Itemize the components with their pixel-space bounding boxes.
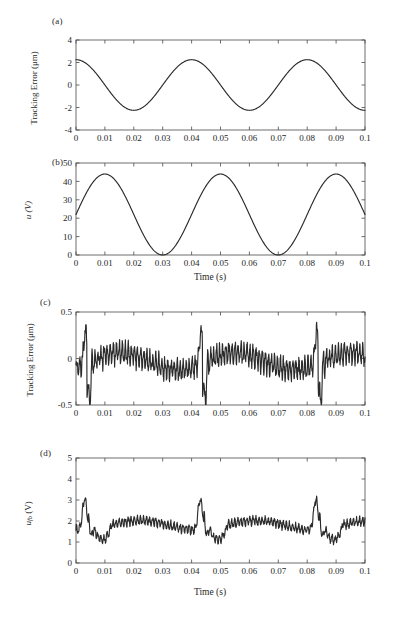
svg-text:0.05: 0.05 xyxy=(213,133,229,143)
svg-text:0: 0 xyxy=(74,566,79,576)
svg-text:0.09: 0.09 xyxy=(328,133,344,143)
svg-text:2: 2 xyxy=(68,516,73,526)
panel-a-plot: 00.010.020.030.040.050.060.070.080.090.1… xyxy=(0,0,413,160)
svg-text:-4: -4 xyxy=(65,125,73,135)
panel-c-plot: 00.010.020.030.040.050.060.070.080.090.1… xyxy=(0,290,413,450)
svg-text:1: 1 xyxy=(68,537,73,547)
svg-text:50: 50 xyxy=(63,158,73,168)
svg-text:0.03: 0.03 xyxy=(155,133,171,143)
svg-text:0.05: 0.05 xyxy=(213,408,229,418)
svg-text:0.02: 0.02 xyxy=(126,566,142,576)
svg-text:0.06: 0.06 xyxy=(242,133,258,143)
svg-text:0: 0 xyxy=(68,354,73,364)
svg-text:-2: -2 xyxy=(65,103,73,113)
svg-text:0.04: 0.04 xyxy=(184,133,200,143)
panel-b-xlabel: Time (s) xyxy=(145,272,275,282)
svg-text:0.05: 0.05 xyxy=(213,258,229,268)
svg-text:0.02: 0.02 xyxy=(126,408,142,418)
svg-text:0.02: 0.02 xyxy=(126,258,142,268)
svg-text:0.06: 0.06 xyxy=(242,408,258,418)
svg-text:0: 0 xyxy=(68,250,73,260)
svg-text:0: 0 xyxy=(74,408,79,418)
svg-text:0.1: 0.1 xyxy=(359,408,370,418)
svg-text:0.5: 0.5 xyxy=(61,307,73,317)
svg-text:0.1: 0.1 xyxy=(359,258,370,268)
svg-text:0.09: 0.09 xyxy=(328,258,344,268)
svg-text:0.01: 0.01 xyxy=(97,258,113,268)
svg-text:0.06: 0.06 xyxy=(242,566,258,576)
svg-text:0.08: 0.08 xyxy=(299,258,315,268)
svg-text:0: 0 xyxy=(68,80,73,90)
svg-text:0.07: 0.07 xyxy=(270,566,286,576)
svg-text:0.03: 0.03 xyxy=(155,258,171,268)
svg-text:0.08: 0.08 xyxy=(299,408,315,418)
svg-text:0.02: 0.02 xyxy=(126,133,142,143)
svg-text:0.07: 0.07 xyxy=(270,133,286,143)
svg-text:0.03: 0.03 xyxy=(155,408,171,418)
svg-text:0.08: 0.08 xyxy=(299,566,315,576)
svg-text:0.05: 0.05 xyxy=(213,566,229,576)
svg-text:5: 5 xyxy=(68,453,73,463)
svg-text:0.06: 0.06 xyxy=(242,258,258,268)
svg-text:0.08: 0.08 xyxy=(299,133,315,143)
svg-text:0.09: 0.09 xyxy=(328,566,344,576)
svg-text:0: 0 xyxy=(68,558,73,568)
svg-text:0.1: 0.1 xyxy=(359,133,370,143)
svg-text:4: 4 xyxy=(68,474,73,484)
svg-text:0: 0 xyxy=(74,133,79,143)
svg-text:0.01: 0.01 xyxy=(97,408,113,418)
panel-d-xlabel: Time (s) xyxy=(145,587,275,597)
figure-container: (a) Tracking Error (μm) 00.010.020.030.0… xyxy=(0,0,413,618)
svg-text:4: 4 xyxy=(68,35,73,45)
svg-text:0.01: 0.01 xyxy=(97,566,113,576)
svg-text:0.07: 0.07 xyxy=(270,408,286,418)
svg-text:2: 2 xyxy=(68,58,73,68)
svg-text:-0.5: -0.5 xyxy=(58,400,73,410)
svg-text:0.09: 0.09 xyxy=(328,408,344,418)
svg-text:0.04: 0.04 xyxy=(184,408,200,418)
svg-text:20: 20 xyxy=(63,213,73,223)
svg-text:0.07: 0.07 xyxy=(270,258,286,268)
svg-text:0.04: 0.04 xyxy=(184,258,200,268)
svg-text:0.01: 0.01 xyxy=(97,133,113,143)
svg-text:0.1: 0.1 xyxy=(359,566,370,576)
svg-text:0.04: 0.04 xyxy=(184,566,200,576)
svg-text:3: 3 xyxy=(68,495,73,505)
svg-text:40: 40 xyxy=(63,177,73,187)
svg-text:0: 0 xyxy=(74,258,79,268)
svg-text:10: 10 xyxy=(63,232,73,242)
svg-text:30: 30 xyxy=(63,195,73,205)
svg-text:0.03: 0.03 xyxy=(155,566,171,576)
